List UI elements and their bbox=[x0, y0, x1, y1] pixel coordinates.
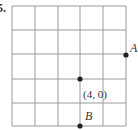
point-B-label: B bbox=[85, 109, 93, 123]
point-B-marker bbox=[77, 123, 82, 128]
point-center-marker bbox=[77, 76, 82, 81]
point-center-label: (4, 0) bbox=[83, 88, 107, 101]
point-A-marker bbox=[123, 52, 128, 57]
problem-number: 5. bbox=[0, 1, 6, 15]
point-A-label: A bbox=[129, 41, 138, 55]
grid-lines bbox=[12, 6, 126, 126]
coordinate-grid-figure: 5. A(4, 0)B bbox=[0, 0, 138, 130]
